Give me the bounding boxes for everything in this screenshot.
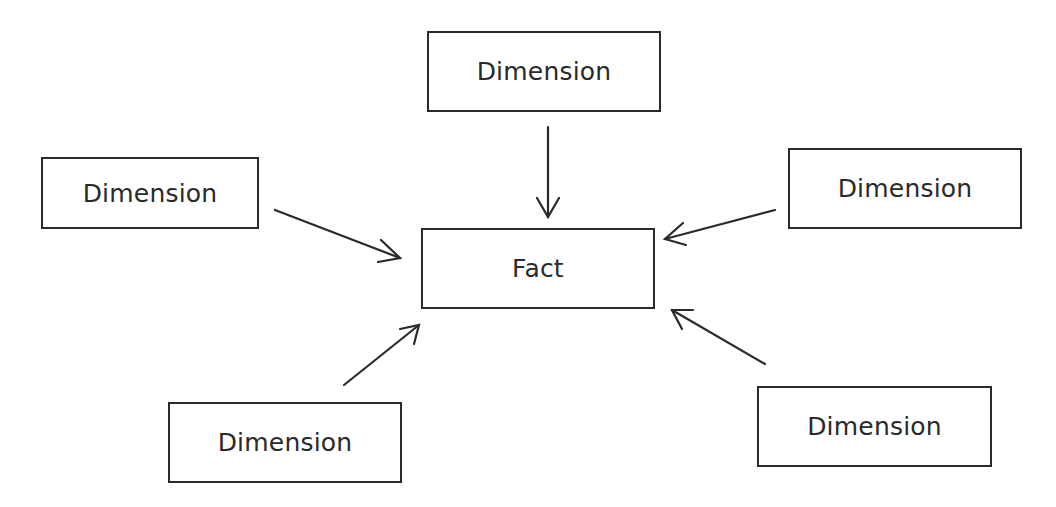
- dimension-box-top: Dimension: [427, 31, 661, 112]
- arrow-top-to-fact: [537, 127, 559, 217]
- fact-box: Fact: [421, 228, 655, 309]
- dimension-box-right: Dimension: [788, 148, 1022, 229]
- dimension-box-bottom-left: Dimension: [168, 402, 402, 483]
- dimension-label: Dimension: [838, 174, 973, 203]
- dimension-label: Dimension: [218, 428, 353, 457]
- dimension-box-bottom-right: Dimension: [757, 386, 992, 467]
- arrow-right-to-fact: [665, 210, 775, 245]
- arrow-bottom-right-to-fact: [672, 310, 765, 364]
- dimension-label: Dimension: [83, 179, 218, 208]
- dimension-box-left: Dimension: [41, 157, 259, 229]
- arrow-bottom-left-to-fact: [344, 325, 419, 385]
- arrow-left-to-fact: [275, 210, 400, 262]
- dimension-label: Dimension: [477, 57, 612, 86]
- dimension-label: Dimension: [807, 412, 942, 441]
- fact-label: Fact: [512, 254, 564, 283]
